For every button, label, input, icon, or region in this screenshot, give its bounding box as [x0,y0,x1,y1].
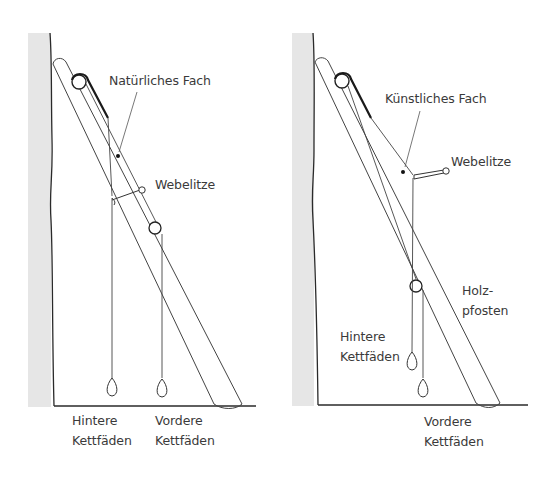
left-wall [28,33,51,407]
left-wooden-post [53,58,242,408]
left-shed-dot [116,154,120,158]
label-right-front-threads-1: Vordere [424,412,472,431]
left-shed-leader [119,92,137,152]
label-right-heddle: Webelitze [451,152,511,171]
label-left-back-threads-1: Hintere [72,411,117,430]
right-back-warp-threads [412,178,413,352]
left-heddle-end [139,187,145,193]
right-heddle-end [443,168,449,174]
diagram-drawing [0,0,553,478]
label-left-heddle: Webelitze [155,175,215,194]
label-post-1: Holz- [462,281,493,300]
label-left-back-threads-2: Kettfäden [72,431,132,450]
label-left-front-threads-1: Vordere [155,411,203,430]
right-front-loom-weight [418,379,428,397]
label-artificial-shed: Künstliches Fach [385,89,487,108]
right-back-warp-upper [371,118,413,175]
left-back-loom-weight [107,378,117,396]
right-shed-rod [410,280,422,292]
right-shed-leader [405,111,420,167]
left-front-warp-upper [86,84,156,222]
right-front-warp-upper [348,86,416,279]
right-heddle-bar [414,170,444,179]
left-shed-rod [149,222,161,234]
right-wall [292,33,314,406]
label-right-front-threads-2: Kettfäden [424,432,484,451]
label-post-2: pfosten [462,301,508,320]
right-back-loom-weight [407,352,417,370]
right-shed-dot [401,170,405,174]
label-left-front-threads-2: Kettfäden [155,431,215,450]
label-natural-shed: Natürliches Fach [109,71,211,90]
left-front-loom-weight [157,379,167,397]
label-right-back-threads-2: Kettfäden [340,347,400,366]
warp-weighted-loom-diagram: Natürliches Fach Webelitze Hintere Kettf… [0,0,553,478]
label-right-back-threads-1: Hintere [340,327,385,346]
